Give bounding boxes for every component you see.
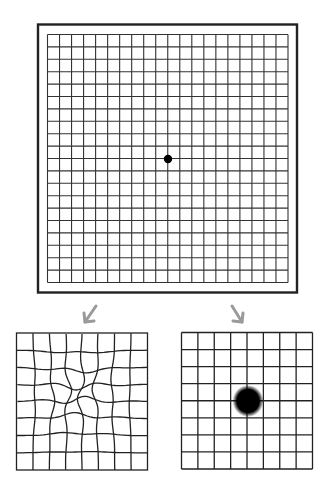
arrow-left-icon: [84, 306, 96, 322]
fixation-dot: [164, 155, 172, 163]
distorted-grid: [17, 333, 148, 470]
scotoma-spot: [233, 385, 264, 417]
amsler-figure: [0, 0, 330, 501]
main-amsler-grid: [38, 25, 297, 293]
scotoma-grid: [182, 333, 313, 470]
arrow-right-icon: [232, 306, 243, 322]
